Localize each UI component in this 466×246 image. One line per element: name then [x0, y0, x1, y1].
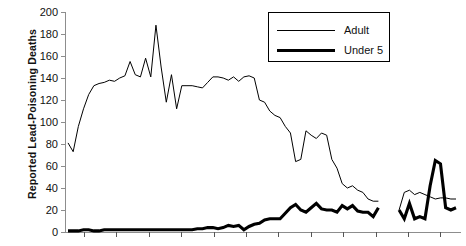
y-tick-label: 80: [46, 139, 58, 150]
legend-swatch-adult: [277, 30, 335, 31]
x-tick: [214, 232, 215, 237]
plot-area: [65, 12, 461, 232]
y-tick-label: 100: [40, 117, 58, 128]
y-tick-label: 40: [46, 183, 58, 194]
y-tick-label: 120: [40, 95, 58, 106]
legend-label-under5: Under 5: [344, 44, 383, 56]
legend-item-adult: Adult: [269, 21, 391, 39]
y-tick-label: 140: [40, 73, 58, 84]
y-tick-label: 180: [40, 29, 58, 40]
x-tick: [246, 232, 247, 237]
legend-item-under5: Under 5: [269, 41, 391, 59]
legend-label-adult: Adult: [344, 24, 369, 36]
line-chart: Reported Lead-Poisoning Deaths 020406080…: [0, 0, 466, 246]
y-axis-tick-labels: 020406080100120140160180200: [22, 0, 58, 246]
x-tick: [84, 232, 85, 237]
y-tick-label: 20: [46, 205, 58, 216]
x-tick: [181, 232, 182, 237]
x-tick: [440, 232, 441, 237]
y-tick-label: 200: [40, 7, 58, 18]
series-line-adult: [68, 25, 456, 210]
x-axis-line: [65, 232, 461, 233]
x-tick: [278, 232, 279, 237]
x-tick: [343, 232, 344, 237]
x-tick: [408, 232, 409, 237]
x-tick: [311, 232, 312, 237]
series-line-under5: [68, 161, 456, 231]
y-tick-label: 60: [46, 161, 58, 172]
y-tick-label: 0: [52, 227, 58, 238]
y-tick-label: 160: [40, 51, 58, 62]
x-tick: [116, 232, 117, 237]
series-lines: [65, 12, 461, 232]
x-tick: [376, 232, 377, 237]
y-tick: [61, 232, 66, 233]
legend: Adult Under 5: [268, 12, 390, 62]
legend-swatch-under5: [277, 49, 335, 52]
x-tick: [149, 232, 150, 237]
